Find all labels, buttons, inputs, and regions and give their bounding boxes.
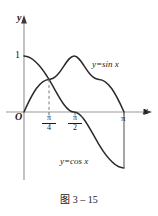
origin-label: O	[15, 112, 22, 122]
x-tick-label-pi-over-4: π 4	[42, 114, 56, 133]
axis-label-y: y	[17, 13, 21, 23]
y-tick-label-1: 1	[15, 50, 20, 60]
fraction-numerator: π	[68, 114, 82, 122]
sine-curve-label: y=sin x	[92, 60, 119, 69]
figure-caption: 图 3 – 15	[0, 191, 158, 206]
fraction-denominator: 4	[42, 124, 56, 132]
cosine-curve-label: y=cos x	[60, 157, 88, 166]
fraction-numerator: π	[42, 114, 56, 122]
figure-container: y x O 1 π 4 π 2 π y=sin x y=cos x 图 3 – …	[0, 0, 158, 216]
x-tick-label-pi-over-2: π 2	[68, 114, 82, 133]
x-tick-label-pi: π	[121, 114, 126, 123]
fraction-denominator: 2	[68, 124, 82, 132]
y-axis-arrowhead	[21, 15, 27, 24]
axis-label-x: x	[143, 106, 148, 116]
